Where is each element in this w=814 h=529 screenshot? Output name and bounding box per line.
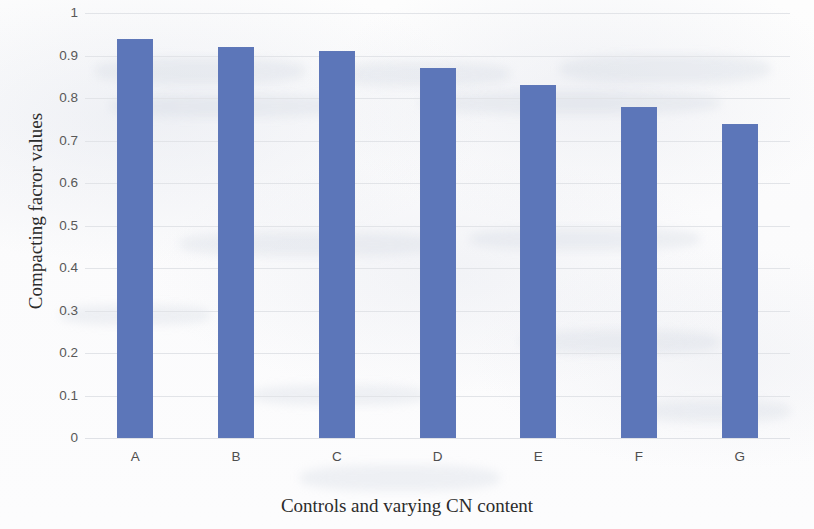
y-axis-tick-label: 0.7: [38, 134, 78, 148]
bar-g: [722, 124, 758, 439]
x-axis-title: Controls and varying CN content: [0, 495, 814, 517]
plot-area: [85, 13, 790, 438]
bar-d: [420, 68, 456, 438]
bar-a: [117, 39, 153, 439]
y-axis-tick-label: 0.9: [38, 49, 78, 63]
x-axis-tick-label: D: [408, 450, 468, 464]
gridline: [85, 13, 790, 14]
x-axis-tick-label: A: [105, 450, 165, 464]
x-axis-tick-labels: ABCDEFG: [85, 450, 790, 470]
gridline: [85, 56, 790, 57]
y-axis-tick-label: 0.2: [38, 346, 78, 360]
bar-e: [520, 85, 556, 438]
y-axis-tick-label: 0.6: [38, 176, 78, 190]
x-axis-tick-label: G: [710, 450, 770, 464]
bar-c: [319, 51, 355, 438]
y-axis-tick-label: 0.4: [38, 261, 78, 275]
x-axis-tick-label: E: [508, 450, 568, 464]
bar-b: [218, 47, 254, 438]
y-axis-tick-label: 0.1: [38, 389, 78, 403]
y-axis-tick-labels: 00.10.20.30.40.50.60.70.80.91: [16, 13, 78, 438]
x-axis-tick-label: C: [307, 450, 367, 464]
chart-figure: Compacting facror values 00.10.20.30.40.…: [0, 0, 814, 529]
y-axis-tick-label: 0.8: [38, 91, 78, 105]
y-axis-tick-label: 0.5: [38, 219, 78, 233]
gridline: [85, 438, 790, 439]
x-axis-tick-label: F: [609, 450, 669, 464]
y-axis-tick-label: 1: [38, 6, 78, 20]
bar-f: [621, 107, 657, 439]
x-axis-tick-label: B: [206, 450, 266, 464]
y-axis-tick-label: 0: [38, 431, 78, 445]
y-axis-tick-label: 0.3: [38, 304, 78, 318]
